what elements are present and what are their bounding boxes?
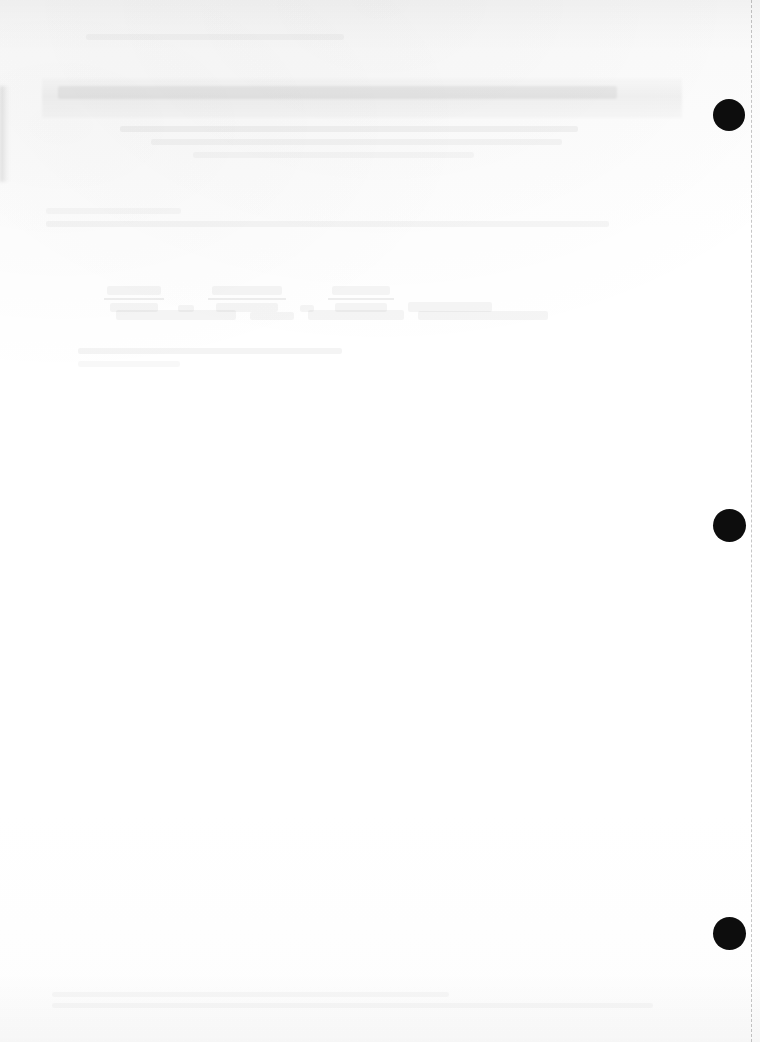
formula-region-secondary	[116, 286, 656, 320]
term-glyph	[250, 312, 294, 320]
scanned-document-page	[0, 0, 760, 1042]
subtitle-region	[120, 126, 640, 165]
footer-region	[52, 992, 672, 1014]
term-glyph	[418, 311, 548, 320]
title-region	[58, 86, 666, 99]
header-text-region	[86, 34, 646, 47]
punch-mark-top	[713, 99, 745, 131]
right-margin-dashed-rule	[751, 0, 752, 1042]
punch-mark-bottom	[713, 917, 746, 950]
left-edge-scan-streak	[0, 86, 10, 182]
body-region	[46, 208, 658, 234]
punch-mark-middle	[713, 509, 746, 542]
caption-region	[78, 348, 378, 374]
term-glyph	[308, 310, 404, 320]
term-glyph	[116, 310, 236, 320]
